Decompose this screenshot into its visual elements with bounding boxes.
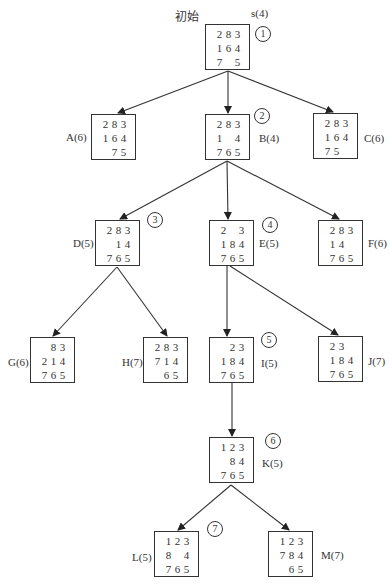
expansion-order-badge: 4 [262,217,278,233]
puzzle-board: 283 714 65 [153,340,180,382]
node-K: 123 84 765 [209,437,254,483]
tile: 2 [287,534,296,548]
edge-B-D [120,161,227,219]
tile [40,340,49,354]
tile: 7 [153,354,162,368]
tile: 3 [182,534,191,548]
puzzle-board: 83 214 765 [40,340,67,382]
tile: 6 [337,251,346,265]
edge-E-J [230,266,338,335]
tile: 7 [110,145,119,159]
tile: 5 [346,367,355,381]
tile: 6 [162,368,171,382]
node-label-B: B(4) [259,131,279,145]
tile: 4 [233,41,242,55]
tile: 1 [278,534,287,548]
tile: 5 [123,251,132,265]
tile: 2 [215,27,224,41]
tile: 4 [58,354,67,368]
tile: 6 [228,251,237,265]
tile: 6 [110,131,119,145]
tile: 6 [114,251,123,265]
puzzle-board: 283 14 765 [105,223,132,265]
tile: 6 [337,367,346,381]
node-label-J: J(7) [368,354,385,368]
tile [346,237,355,251]
tile: 3 [58,340,67,354]
tile: 7 [215,145,224,159]
tile: 4 [337,237,346,251]
tile: 4 [182,548,191,562]
edge-s-C [228,71,333,112]
tile: 3 [233,27,242,41]
tile: 4 [237,454,246,468]
tile: 8 [228,237,237,251]
edge-s-A [118,71,228,113]
tile: 8 [332,116,341,130]
tile: 4 [171,354,180,368]
puzzle-board: 123 784 65 [278,534,305,576]
tile: 3 [346,223,355,237]
tile: 7 [328,251,337,265]
tile: 5 [233,145,242,159]
node-J: 23 184 765 [318,336,363,382]
tile: 2 [153,340,162,354]
tile: 1 [49,354,58,368]
tile [219,454,228,468]
tile: 7 [215,55,224,69]
node-C: 283 164 75 [313,113,358,159]
tile: 2 [40,354,49,368]
puzzle-board: 283 14 765 [328,223,355,265]
tile [219,340,228,354]
tile: 1 [219,354,228,368]
tile: 4 [233,131,242,145]
tile: 7 [40,368,49,382]
tile: 5 [237,251,246,265]
tile: 1 [215,41,224,55]
tile: 8 [228,454,237,468]
tile: 2 [101,117,110,131]
tile: 7 [105,251,114,265]
tile: 8 [114,223,123,237]
node-G: 83 214 765 [30,337,75,383]
node-label-A: A(6) [66,130,87,144]
tile: 6 [287,562,296,576]
tile: 7 [328,367,337,381]
tile: 6 [332,130,341,144]
expansion-order-badge: 7 [207,521,223,537]
tile: 5 [332,144,341,158]
tile: 1 [164,534,173,548]
tile: 4 [296,548,305,562]
puzzle-board: 283 14 765 [215,117,242,159]
tile: 6 [224,41,233,55]
tile: 7 [219,468,228,482]
node-label-K: K(5) [262,456,283,470]
tile: 6 [228,368,237,382]
puzzle-board: 283 164 75 [215,27,242,69]
tile: 5 [58,368,67,382]
tile: 5 [346,251,355,265]
edge-K-M [231,485,289,530]
tile [346,339,355,353]
tile: 4 [237,354,246,368]
tile: 3 [119,117,128,131]
puzzle-board: 283 164 75 [101,117,128,159]
tile: 2 [328,223,337,237]
tile: 3 [171,340,180,354]
tile [224,55,233,69]
tile: 3 [233,117,242,131]
expansion-order-badge: 3 [147,212,163,228]
tile: 3 [237,223,246,237]
edge-K-L [178,485,231,530]
tile: 6 [49,368,58,382]
tile: 5 [182,562,191,576]
tile: 8 [49,340,58,354]
node-I: 23 184 765 [209,337,254,383]
tile: 5 [296,562,305,576]
tile: 7 [323,144,332,158]
tile: 6 [228,468,237,482]
puzzle-board: 23 184 765 [219,223,246,265]
puzzle-board: 123 84 765 [164,534,191,576]
puzzle-board: 123 84 765 [219,440,246,482]
tile: 8 [110,117,119,131]
